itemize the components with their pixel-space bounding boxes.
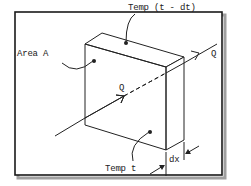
thickness-label: dx [169,156,179,165]
area-dot-icon [92,59,96,63]
temp-cold-dot-icon [148,130,152,134]
area-label: Area A [17,50,48,59]
diagram-canvas: Area A Temp (t - dt) Temp t Q Q dx [0,0,251,186]
temp-cold-label: Temp t [105,165,136,174]
heat-flow-in-label: Q [119,84,124,93]
heat-flow-out-label: Q [211,50,216,59]
temp-hot-label: Temp (t - dt) [128,4,196,13]
temp-hot-dot-icon [124,41,128,45]
slab-diagram [0,0,251,186]
